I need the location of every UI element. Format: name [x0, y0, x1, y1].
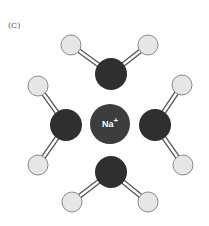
- water-bottom-hydrogen-2: [138, 192, 158, 212]
- water-left-oxygen: [50, 109, 82, 141]
- water-top-hydrogen-2: [138, 35, 158, 55]
- water-right-oxygen: [139, 109, 171, 141]
- water-left-hydrogen-2: [28, 155, 48, 175]
- water-right-hydrogen-2: [173, 155, 193, 175]
- water-top-hydrogen-1: [61, 35, 81, 55]
- diagram-canvas: (C) Na+: [0, 0, 209, 226]
- hydration-shell-diagram: Na+: [0, 0, 209, 226]
- charge-superscript: +: [113, 116, 118, 125]
- water-left-hydrogen-1: [28, 76, 48, 96]
- water-top-oxygen: [95, 58, 127, 90]
- water-right-hydrogen-1: [172, 75, 192, 95]
- sodium-ion: Na+: [90, 104, 130, 144]
- water-bottom-hydrogen-1: [62, 192, 82, 212]
- water-bottom-oxygen: [95, 156, 127, 188]
